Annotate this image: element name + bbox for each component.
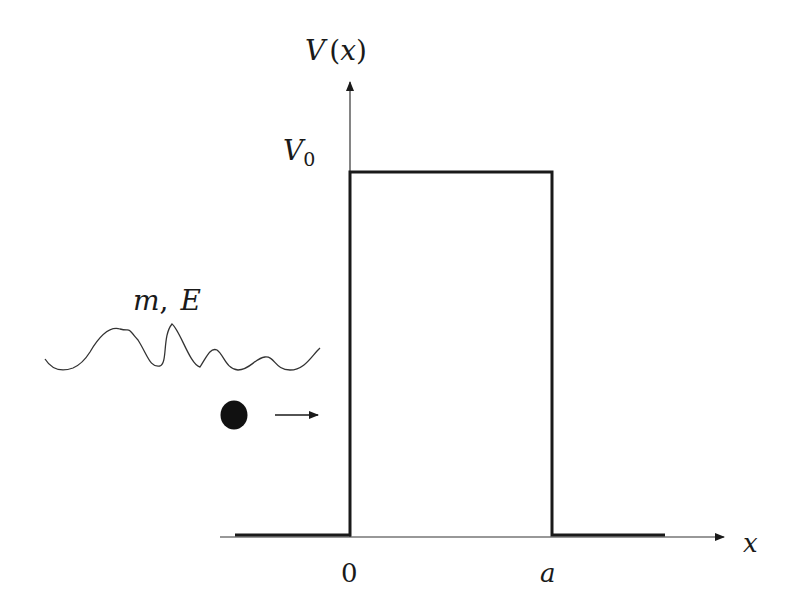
particle-icon	[221, 401, 248, 430]
particle-label: m,E	[133, 284, 201, 317]
potential-barrier-diagram: V(x) V0 0 a x m,E	[0, 0, 800, 614]
x-axis-label: x	[743, 528, 758, 558]
wave-packet	[45, 324, 320, 370]
potential-curve	[235, 172, 665, 535]
x-tick-a: a	[540, 558, 556, 588]
x-tick-0: 0	[341, 558, 358, 588]
barrier-height-label: V0	[283, 134, 315, 170]
barrier-shape	[235, 172, 665, 535]
y-axis-label: V(x)	[305, 34, 367, 67]
